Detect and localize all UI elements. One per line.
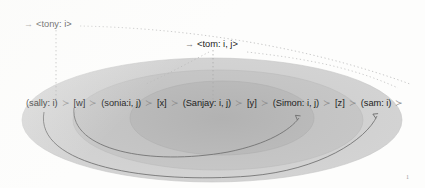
chain-item-simon: (Simon: i, j)	[273, 98, 319, 108]
chain-separator-icon: ≻	[231, 98, 247, 108]
annotation-tony-arrow-icon: →	[24, 19, 36, 29]
annotation-tom-arrow-icon: →	[185, 39, 197, 49]
chain-item-sam: (sam: i)	[361, 98, 392, 108]
chain-item-z: [z]	[335, 98, 345, 108]
chain-separator-icon: ≻	[141, 98, 157, 108]
annotation-tom-label: <tom: i, j>	[197, 39, 238, 49]
annotation-tony-label: <tony: i>	[36, 19, 72, 29]
chain-item-sanjay: (Sanjay: i, j)	[183, 98, 231, 108]
chain-item-x: [x]	[157, 98, 167, 108]
chain-separator-icon: ≻	[58, 98, 74, 108]
chain-item-w: [w]	[74, 98, 86, 108]
chain-trailing-separator-icon: ≻	[391, 98, 407, 108]
diagram-canvas: →<tony: i> →<tom: i, j> (sally: i) ≻ [w]…	[0, 0, 425, 188]
chain-separator-icon: ≻	[85, 98, 101, 108]
chain-item-y: [y]	[247, 98, 257, 108]
chain-item-sonia: (sonia:i, j)	[101, 98, 141, 108]
path-chain: (sally: i) ≻ [w] ≻ (sonia:i, j) ≻ [x] ≻ …	[26, 98, 407, 108]
annotation-tom: →<tom: i, j>	[185, 39, 238, 49]
page-number: 1	[406, 174, 409, 180]
annotation-tony: →<tony: i>	[24, 19, 72, 29]
ellipse-inner	[130, 81, 314, 155]
chain-item-sally: (sally: i)	[26, 98, 58, 108]
chain-separator-icon: ≻	[257, 98, 273, 108]
chain-separator-icon: ≻	[167, 98, 183, 108]
chain-separator-icon: ≻	[345, 98, 361, 108]
chain-separator-icon: ≻	[319, 98, 335, 108]
